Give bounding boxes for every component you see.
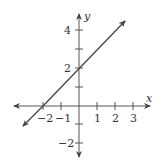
x-tick-label: 3 [130, 112, 137, 125]
y-tick-label: −2 [58, 137, 74, 150]
x-tick-label: −1 [55, 112, 71, 125]
coordinate-plane: x y −2 −1 1 2 3 4 2 −2 [0, 0, 164, 163]
y-tick-label: 2 [64, 62, 71, 75]
y-axis-label: y [83, 10, 91, 23]
y-tick-label: 4 [64, 24, 71, 37]
line-y-equals-x-plus-2-upper [43, 21, 125, 106]
x-tick-label: 2 [112, 112, 119, 125]
x-tick-label: −2 [37, 112, 53, 125]
x-tick-label: 1 [94, 112, 101, 125]
x-axis-label: x [146, 92, 153, 105]
